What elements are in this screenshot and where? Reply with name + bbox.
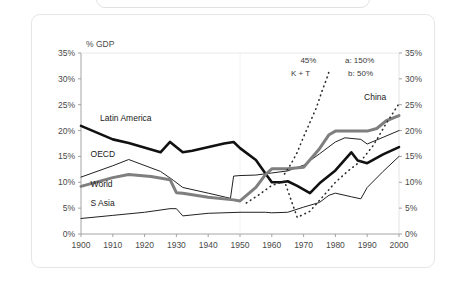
x-tick-label: 1910 (103, 240, 122, 250)
y-tick-label-right: 10% (405, 177, 422, 187)
y-tick-label-left: 5% (63, 203, 76, 213)
annotation-k-t: K + T (291, 69, 310, 78)
x-tick-label: 2000 (390, 240, 409, 250)
line-chart: 0%5%10%15%20%25%30%35%0%5%10%15%20%25%30… (0, 0, 466, 285)
y-tick-label-right: 35% (405, 48, 422, 58)
series-label-china: China (364, 92, 386, 102)
annotation-a-150: a: 150% (345, 56, 374, 65)
y-tick-label-right: 25% (405, 100, 422, 110)
series-label-s-asia: S Asia (91, 198, 115, 208)
series-line-k-t (285, 72, 330, 174)
series-label-oecd: OECD (91, 149, 116, 159)
y-tick-label-left: 25% (58, 100, 75, 110)
y-axis-title: % GDP (86, 39, 115, 49)
x-tick-label: 1970 (294, 240, 313, 250)
x-tick-label: 1930 (167, 240, 186, 250)
y-tick-label-left: 30% (58, 74, 75, 84)
y-tick-label-left: 35% (58, 48, 75, 58)
series-label-world: World (91, 179, 113, 189)
x-tick-label: 1990 (358, 240, 377, 250)
y-tick-label-right: 5% (405, 203, 418, 213)
y-tick-label-right: 0% (405, 229, 418, 239)
chart-figure: 0%5%10%15%20%25%30%35%0%5%10%15%20%25%30… (0, 0, 466, 285)
x-tick-label: 1920 (135, 240, 154, 250)
y-tick-label-right: 20% (405, 126, 422, 136)
y-tick-label-left: 0% (63, 229, 76, 239)
x-tick-label: 1940 (199, 240, 218, 250)
y-tick-label-left: 15% (58, 151, 75, 161)
x-tick-label: 1950 (231, 240, 250, 250)
x-tick-label: 1960 (262, 240, 281, 250)
y-tick-label-right: 30% (405, 74, 422, 84)
annotation-45: 45% (300, 56, 316, 65)
annotation-b-50: b: 50% (348, 69, 373, 78)
y-tick-label-left: 20% (58, 126, 75, 136)
y-tick-label-left: 10% (58, 177, 75, 187)
x-tick-label: 1980 (326, 240, 345, 250)
y-tick-label-right: 15% (405, 151, 422, 161)
x-tick-label: 1900 (72, 240, 91, 250)
series-label-latin-america: Latin America (100, 113, 152, 123)
